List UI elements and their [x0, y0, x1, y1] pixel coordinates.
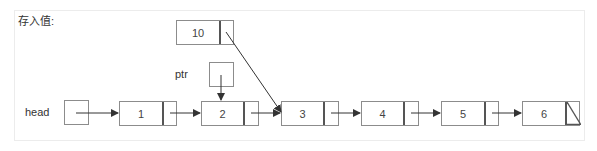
node-data: 3: [282, 102, 325, 125]
list-node-4: 4: [361, 101, 419, 126]
list-node-5: 5: [441, 101, 499, 126]
ptr-box: [209, 62, 234, 87]
node-next-pointer: [221, 21, 233, 44]
node-next-pointer: [245, 102, 258, 125]
node-data: 4: [362, 102, 405, 125]
head-label: head: [25, 106, 49, 118]
null-slash-icon: [567, 102, 581, 125]
head-box: [64, 100, 89, 125]
panel-title: 存入值:: [18, 12, 54, 28]
ptr-label: ptr: [175, 68, 188, 80]
node-data: 10: [177, 21, 221, 44]
node-data: 6: [523, 102, 567, 125]
node-next-pointer: [405, 102, 418, 125]
null-pointer: [567, 102, 579, 125]
node-next-pointer: [486, 102, 498, 125]
list-node-3: 3: [281, 101, 339, 126]
node-data: 1: [120, 102, 164, 125]
node-data: 5: [442, 102, 486, 125]
list-node-1: 1: [119, 101, 177, 126]
node-next-pointer: [164, 102, 176, 125]
node-next-pointer: [325, 102, 338, 125]
list-node-2: 2: [201, 101, 259, 126]
list-node-6: 6: [522, 101, 580, 126]
new-node-10: 10: [176, 20, 234, 45]
node-data: 2: [202, 102, 245, 125]
